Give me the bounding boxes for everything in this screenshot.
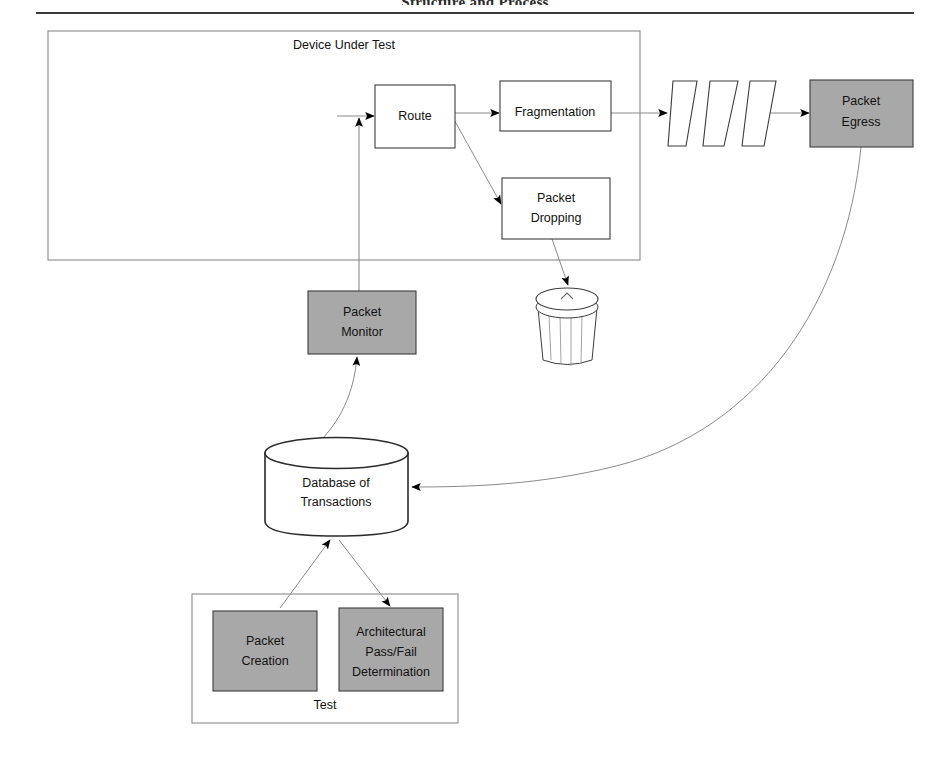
node-label-packet-dropping-line2: Dropping [531,211,582,225]
node-label-fragmentation: Fragmentation [515,105,596,119]
edge-packet-creation-to-database [280,540,330,608]
node-packet-monitor[interactable]: Packet Monitor [308,291,416,354]
packet-stream-icon [668,81,776,146]
node-label-pass-fail-line2: Pass/Fail [365,645,416,659]
group-label-test: Test [314,698,337,712]
node-architectural-pass-fail-determination[interactable]: Architectural Pass/Fail Determination [339,608,443,691]
node-label-packet-creation-line1: Packet [246,634,285,648]
group-label-device-under-test: Device Under Test [293,38,395,52]
node-label-packet-monitor-line1: Packet [343,305,382,319]
node-label-database-line2: Transactions [300,495,371,509]
node-label-database-line1: Database of [302,476,370,490]
node-label-packet-egress-line2: Egress [842,115,881,129]
flow-diagram: Device Under Test [0,0,950,758]
trash-can-icon [536,288,598,366]
node-packet-creation[interactable]: Packet Creation [213,611,317,691]
node-label-packet-creation-line2: Creation [241,654,288,668]
node-label-pass-fail-line1: Architectural [356,625,425,639]
node-fragmentation[interactable]: Fragmentation [500,81,611,131]
edge-route-to-packet-dropping [452,116,501,204]
node-label-packet-egress-line1: Packet [842,94,881,108]
node-route[interactable]: Route [375,85,455,148]
edge-packet-dropping-to-trash-can [552,239,568,285]
node-database-of-transactions[interactable]: Database of Transactions [265,438,408,537]
node-packet-dropping[interactable]: Packet Dropping [502,178,610,239]
node-label-packet-dropping-line1: Packet [537,191,576,205]
node-label-route: Route [398,109,431,123]
node-packet-egress[interactable]: Packet Egress [810,80,913,147]
node-label-pass-fail-line3: Determination [352,665,430,679]
diagram-page: Structure and Process Device Under Test [0,0,950,758]
edge-packet-egress-to-database [412,147,861,487]
edge-database-to-pass-fail [339,540,390,606]
node-label-packet-monitor-line2: Monitor [341,325,383,339]
